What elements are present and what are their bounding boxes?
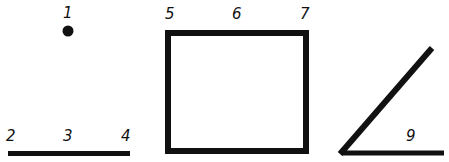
point-dot <box>63 26 74 37</box>
square-label-middle: 6 <box>232 7 242 22</box>
square-label-left: 5 <box>165 7 175 22</box>
angle-label: 9 <box>406 129 416 144</box>
point-label: 1 <box>63 6 73 21</box>
line-label-start: 2 <box>6 129 16 144</box>
square-shape <box>168 33 306 151</box>
line-segment <box>8 151 130 156</box>
angle-diagonal-arm <box>340 48 432 154</box>
square-label-right: 7 <box>300 7 310 22</box>
line-label-middle: 3 <box>63 129 73 144</box>
geometry-figure: 1 2 3 4 5 6 7 9 <box>0 0 449 162</box>
line-label-end: 4 <box>121 129 131 144</box>
